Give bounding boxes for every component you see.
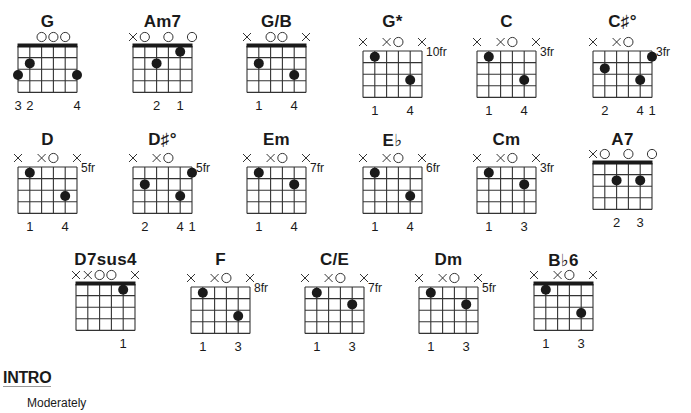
chord-name: Dm: [399, 250, 498, 270]
chord-name: E♭: [343, 130, 442, 151]
finger-number: 1: [186, 219, 198, 234]
chord-diagram: [133, 167, 192, 213]
chord-diagram: [18, 167, 77, 213]
finger-number: 1: [117, 336, 129, 351]
finger-number: 4: [288, 98, 300, 113]
finger-number: 1: [24, 219, 36, 234]
finger-number: 4: [288, 219, 300, 234]
chord-name: C/E: [285, 250, 384, 270]
finger-number: 3: [12, 98, 24, 113]
chord-diagram: [363, 167, 422, 213]
fret-position-label: 3fr: [540, 161, 554, 175]
fret-position-label: 10fr: [426, 45, 447, 59]
finger-number: 1: [174, 98, 186, 113]
finger-number: 1: [646, 103, 658, 118]
chord-name: G/B: [227, 12, 326, 32]
chord-name: G: [0, 12, 97, 32]
fret-position-label: 7fr: [368, 281, 382, 295]
finger-number: 4: [518, 103, 530, 118]
chord-diagram: [305, 287, 364, 333]
chord-diagram: [18, 46, 77, 92]
finger-number: 4: [59, 219, 71, 234]
finger-number: 1: [369, 219, 381, 234]
finger-number: 3: [460, 339, 472, 354]
chord-diagram: [191, 287, 250, 333]
chord-name: G*: [343, 12, 442, 32]
finger-number: 4: [404, 103, 416, 118]
chord-name: Cm: [457, 130, 556, 150]
chord-diagram: [419, 287, 478, 333]
finger-number: 2: [611, 215, 623, 230]
finger-number: 3: [232, 339, 244, 354]
chord-diagram: [477, 167, 536, 213]
section-title: INTRO: [3, 370, 51, 387]
chord-name: D: [0, 130, 97, 150]
chord-diagram: [593, 51, 652, 97]
finger-number: 1: [540, 336, 552, 351]
finger-number: 1: [369, 103, 381, 118]
fret-position-label: 7fr: [310, 161, 324, 175]
fret-position-label: 5fr: [196, 161, 210, 175]
finger-number: 1: [253, 98, 265, 113]
chord-diagram: [247, 167, 306, 213]
chord-name: F: [171, 250, 270, 270]
finger-number: 4: [634, 103, 646, 118]
finger-number: 1: [311, 339, 323, 354]
chord-name: A7: [573, 130, 672, 150]
chord-name: D♯°: [113, 130, 212, 150]
chord-diagram: [363, 51, 422, 97]
finger-number: 3: [518, 219, 530, 234]
fret-position-label: 3fr: [540, 45, 554, 59]
finger-number: 3: [634, 215, 646, 230]
fret-position-label: 5fr: [81, 161, 95, 175]
chord-name: C♯°: [573, 12, 672, 32]
finger-number: 3: [346, 339, 358, 354]
finger-number: 3: [575, 336, 587, 351]
finger-number: 1: [197, 339, 209, 354]
chord-diagram: [76, 284, 135, 330]
fret-position-label: 6fr: [426, 161, 440, 175]
tempo-marking: Moderately: [27, 396, 86, 410]
chord-name: D7sus4: [56, 250, 155, 270]
chord-name: Em: [227, 130, 326, 150]
fret-position-label: 5fr: [482, 281, 496, 295]
chord-name: C: [457, 12, 556, 32]
chord-diagram: [534, 284, 593, 330]
chord-diagram: [477, 51, 536, 97]
finger-number: 2: [599, 103, 611, 118]
chord-name: B♭6: [514, 250, 613, 271]
chord-name: Am7: [113, 12, 212, 32]
finger-number: 4: [174, 219, 186, 234]
finger-number: 1: [425, 339, 437, 354]
finger-number: 2: [24, 98, 36, 113]
finger-number: 4: [71, 98, 83, 113]
finger-number: 1: [253, 219, 265, 234]
fret-position-label: 8fr: [254, 281, 268, 295]
finger-number: 2: [151, 98, 163, 113]
fret-position-label: 3fr: [656, 45, 670, 59]
chord-diagram: [593, 163, 652, 209]
finger-number: 2: [139, 219, 151, 234]
finger-number: 1: [483, 219, 495, 234]
finger-number: 4: [404, 219, 416, 234]
finger-number: 1: [483, 103, 495, 118]
chord-diagram: [247, 46, 306, 92]
chord-diagram: [133, 46, 192, 92]
